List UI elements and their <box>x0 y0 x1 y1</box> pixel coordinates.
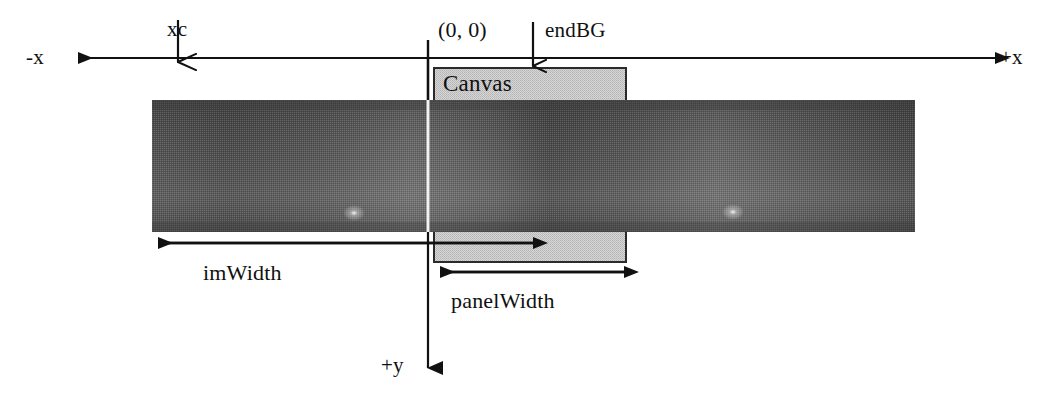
origin-label: (0, 0) <box>438 19 487 41</box>
dimension-label-panelwidth: panelWidth <box>451 290 555 312</box>
highlight-spot <box>343 205 365 221</box>
marker-label-endbg: endBG <box>545 20 606 41</box>
canvas-region-bottom <box>434 231 626 262</box>
dimension-label-imwidth: imWidth <box>203 262 282 284</box>
axis-label-negative-x: -x <box>26 47 44 68</box>
axis-label-positive-x: +x <box>1000 47 1023 68</box>
diagram-graphics <box>0 0 1060 403</box>
canvas-label: Canvas <box>443 72 512 95</box>
marker-label-xc: xc <box>167 19 187 40</box>
highlight-spot <box>722 204 744 220</box>
diagram-canvas: -x +x xc (0, 0) endBG Canvas imWidth pan… <box>0 0 1060 403</box>
axis-label-positive-y: +y <box>381 355 404 376</box>
panorama-image-strip <box>152 100 915 232</box>
